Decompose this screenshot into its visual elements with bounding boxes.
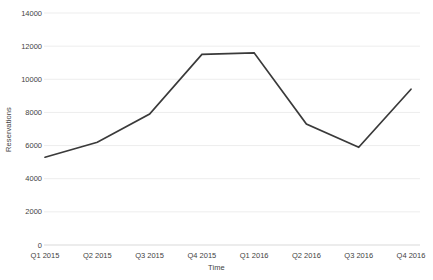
data-line	[45, 53, 411, 157]
x-tick-label: Q1 2016	[240, 251, 269, 260]
x-axis-title: Time	[0, 263, 433, 272]
y-tick-label: 0	[38, 241, 42, 250]
x-tick-label: Q3 2015	[135, 251, 164, 260]
x-tick-label: Q4 2015	[187, 251, 216, 260]
x-tick-label: Q4 2016	[397, 251, 426, 260]
x-tick-label: Q2 2015	[83, 251, 112, 260]
y-tick-label: 12000	[21, 42, 42, 51]
plot-area: 02000400060008000100001200014000Q1 2015Q…	[0, 0, 433, 280]
reservations-line-chart: 02000400060008000100001200014000Q1 2015Q…	[0, 0, 433, 280]
y-tick-label: 14000	[21, 9, 42, 18]
x-tick-label: Q1 2015	[31, 251, 60, 260]
x-tick-label: Q3 2016	[344, 251, 373, 260]
y-axis-title: Reservations	[4, 85, 13, 175]
x-tick-label: Q2 2016	[292, 251, 321, 260]
y-tick-label: 6000	[25, 141, 42, 150]
y-tick-label: 2000	[25, 207, 42, 216]
y-tick-label: 4000	[25, 174, 42, 183]
y-tick-label: 10000	[21, 75, 42, 84]
y-tick-label: 8000	[25, 108, 42, 117]
